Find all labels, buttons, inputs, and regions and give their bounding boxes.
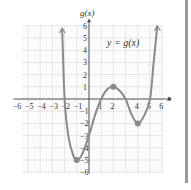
- function-graph: −6−5−4−3−2−112456654321−1−2−3−4−5−6 g(x)…: [0, 0, 191, 190]
- key-point-marker: [110, 84, 116, 90]
- x-tick-label: 6: [159, 102, 163, 111]
- y-tick-label: 5: [83, 34, 87, 43]
- y-axis-label: g(x): [80, 8, 95, 18]
- x-tick-label: −3: [49, 102, 58, 111]
- y-tick-label: 3: [83, 58, 87, 67]
- x-tick-label: −5: [25, 102, 34, 111]
- y-tick-label: 1: [83, 83, 87, 92]
- y-tick-label: 6: [83, 22, 87, 31]
- key-point-marker: [135, 120, 141, 126]
- x-tick-label: −6: [13, 102, 22, 111]
- x-tick-label: −4: [37, 102, 46, 111]
- y-tick-label: −6: [80, 168, 89, 177]
- x-tick-label: 2: [110, 102, 114, 111]
- x-axis-label: x: [166, 93, 171, 103]
- y-tick-label: −2: [80, 119, 89, 128]
- y-tick-label: 4: [83, 46, 87, 55]
- equation-label: y = g(x): [106, 37, 140, 49]
- y-tick-label: −1: [80, 107, 89, 116]
- y-tick-label: 2: [83, 71, 87, 80]
- divider-bar: [185, 0, 188, 183]
- key-point-marker: [74, 157, 80, 163]
- x-tick-label: 4: [135, 102, 139, 111]
